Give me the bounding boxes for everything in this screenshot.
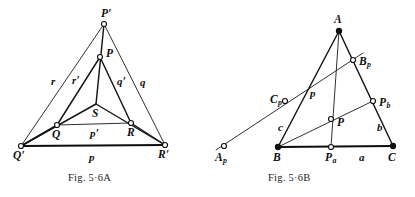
caption-figure-5-6b: Fig. 5·6B (268, 172, 311, 183)
node-a (336, 28, 341, 33)
label-point-r: R (127, 127, 135, 139)
label-side-p-prime: p′ (90, 128, 99, 140)
label-point-c: C (388, 152, 396, 164)
figure-5-6b: A Bp Cp Pb P Ap B Pa C p c b a Fig. 5·6B (200, 0, 415, 197)
node-q (55, 123, 60, 128)
label-point-b: B (273, 152, 281, 164)
figure-5-6a-drawing (0, 0, 208, 197)
segment-p-r (100, 57, 131, 123)
node-b (275, 144, 280, 149)
segment-a-c (339, 31, 393, 146)
label-point-c-p: Cp (270, 94, 282, 106)
node-c (390, 143, 395, 148)
node-p (329, 117, 334, 122)
label-point-p-a: Pa (325, 152, 336, 164)
label-side-p: p (89, 152, 95, 163)
label-point-qprime: Q′ (13, 150, 25, 162)
figure-board: P′ P S Q R Q′ R′ r r′ q′ q p′ p Fig. 5·6… (0, 0, 415, 197)
figure-5-6a: P′ P S Q R Q′ R′ r r′ q′ q p′ p Fig. 5·6… (0, 0, 208, 197)
segment-a-pa (331, 31, 339, 147)
segment-b-pb (278, 101, 373, 147)
label-side-r-prime: r′ (72, 75, 80, 87)
label-side-r: r (51, 76, 55, 87)
segment-transversal-p (216, 53, 363, 150)
label-point-p: P (106, 48, 113, 60)
node-pprime (102, 22, 107, 27)
segment-qprime-rprime (21, 145, 165, 146)
label-point-pprime: P′ (101, 8, 112, 20)
label-point-p-b: Pb (379, 97, 390, 109)
label-point-q: Q (52, 129, 61, 141)
label-point-p: P (337, 117, 344, 129)
label-side-p: p (310, 88, 316, 99)
label-point-rprime: R′ (158, 149, 169, 161)
label-point-a-p: Ap (215, 152, 227, 164)
label-side-q: q (140, 77, 146, 88)
node-p (98, 55, 103, 60)
label-point-s: S (92, 108, 99, 120)
node-c-p (283, 99, 288, 104)
label-point-a: A (334, 14, 342, 26)
segment-q-r (57, 123, 131, 125)
node-p-b (371, 99, 376, 104)
node-r (129, 121, 134, 126)
node-rprime (163, 143, 168, 148)
node-a-p (222, 144, 227, 149)
label-side-a: a (359, 152, 365, 163)
label-side-b: b (377, 122, 383, 133)
node-b-p (351, 58, 356, 63)
node-p-a (329, 145, 334, 150)
caption-figure-5-6a: Fig. 5·6A (68, 172, 111, 183)
node-qprime (19, 144, 24, 149)
label-side-c: c (278, 122, 283, 133)
label-side-q-prime: q′ (117, 76, 126, 88)
segment-b-c (278, 146, 393, 147)
label-point-b-p: Bp (359, 56, 371, 68)
